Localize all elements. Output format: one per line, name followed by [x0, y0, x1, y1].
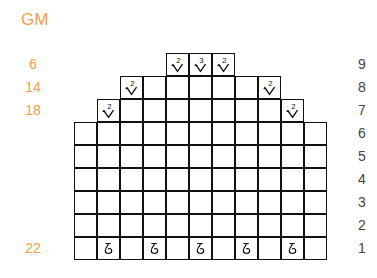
chart-cell: [258, 168, 281, 191]
row-number: 4: [352, 171, 372, 187]
chart-cell: [166, 168, 189, 191]
chart-cell: [258, 145, 281, 168]
chart-cell: [212, 122, 235, 145]
chart-cell: [189, 237, 212, 260]
chart-title: GM: [21, 10, 48, 30]
chart-cell: [120, 191, 143, 214]
chart-cell: 2: [166, 53, 189, 76]
chart-cell: [143, 237, 166, 260]
chart-cell: [258, 122, 281, 145]
decrease-v-icon: 2: [259, 77, 280, 98]
chart-cell: [281, 168, 304, 191]
chart-cell: [143, 76, 166, 99]
chart-cell: [235, 237, 258, 260]
chart-cell: [189, 145, 212, 168]
chart-cell: [97, 122, 120, 145]
row-number: 3: [352, 194, 372, 210]
row-number: 8: [352, 79, 372, 95]
loop-stitch-icon: [98, 238, 119, 259]
chart-cell: [189, 76, 212, 99]
chart-cell: [212, 191, 235, 214]
chart-cell: [143, 168, 166, 191]
chart-cell: [166, 237, 189, 260]
chart-cell: [258, 191, 281, 214]
chart-cell: 2: [212, 53, 235, 76]
chart-cell: [143, 145, 166, 168]
chart-cell: [143, 191, 166, 214]
chart-cell: [304, 191, 327, 214]
chart-cell: [74, 237, 97, 260]
chart-cell: [143, 122, 166, 145]
row-number: 2: [352, 217, 372, 233]
chart-cell: [143, 99, 166, 122]
chart-cell: 2: [258, 76, 281, 99]
chart-cell: [212, 214, 235, 237]
chart-cell: 2: [97, 99, 120, 122]
chart-cell: [235, 214, 258, 237]
chart-cell: [281, 145, 304, 168]
chart-cell: [235, 191, 258, 214]
chart-cell: [166, 214, 189, 237]
chart-cell: [304, 214, 327, 237]
chart-cell: [304, 237, 327, 260]
chart-cell: [281, 122, 304, 145]
row-number: 1: [352, 240, 372, 256]
chart-cell: [212, 145, 235, 168]
chart-cell: 2: [120, 76, 143, 99]
row-number: 7: [352, 102, 372, 118]
svg-text:2: 2: [107, 102, 111, 111]
chart-cell: [120, 122, 143, 145]
svg-text:2: 2: [291, 102, 295, 111]
chart-cell: [166, 99, 189, 122]
svg-text:2: 2: [130, 79, 134, 88]
chart-cell: [120, 99, 143, 122]
chart-cell: [97, 145, 120, 168]
chart-cell: [304, 122, 327, 145]
chart-cell: [235, 145, 258, 168]
svg-text:2: 2: [268, 79, 272, 88]
chart-cell: [258, 99, 281, 122]
chart-cell: [281, 237, 304, 260]
loop-stitch-icon: [236, 238, 257, 259]
chart-cell: [189, 214, 212, 237]
chart-cell: [143, 214, 166, 237]
chart-cell: 3: [189, 53, 212, 76]
chart-cell: [281, 214, 304, 237]
stitch-count-label: 22: [13, 240, 53, 256]
chart-cell: [166, 122, 189, 145]
loop-stitch-icon: [190, 238, 211, 259]
chart-cell: [166, 145, 189, 168]
loop-stitch-icon: [144, 238, 165, 259]
chart-cell: [74, 168, 97, 191]
chart-cell: [258, 214, 281, 237]
chart-cell: [97, 168, 120, 191]
chart-cell: [212, 237, 235, 260]
chart-cell: [212, 168, 235, 191]
decrease-v-icon: 2: [167, 54, 188, 75]
chart-cell: [120, 237, 143, 260]
decrease-v-icon: 2: [121, 77, 142, 98]
stitch-count-label: 14: [13, 79, 53, 95]
chart-cell: [258, 237, 281, 260]
svg-text:3: 3: [199, 56, 203, 65]
chart-cell: [212, 99, 235, 122]
chart-cell: [166, 191, 189, 214]
decrease-v-icon: 2: [282, 100, 303, 121]
svg-text:2: 2: [222, 56, 226, 65]
chart-cell: [235, 99, 258, 122]
chart-cell: [235, 76, 258, 99]
chart-cell: [189, 168, 212, 191]
chart-cell: [189, 191, 212, 214]
stitch-count-label: 18: [13, 102, 53, 118]
chart-cell: [189, 99, 212, 122]
decrease-v-icon: 2: [98, 100, 119, 121]
decrease-v-icon: 2: [213, 54, 234, 75]
chart-cell: [74, 122, 97, 145]
svg-text:2: 2: [176, 56, 180, 65]
chart-cell: [74, 191, 97, 214]
chart-cell: [212, 76, 235, 99]
chart-cell: [97, 191, 120, 214]
chart-cell: [120, 145, 143, 168]
chart-cell: [235, 168, 258, 191]
chart-cell: [189, 122, 212, 145]
